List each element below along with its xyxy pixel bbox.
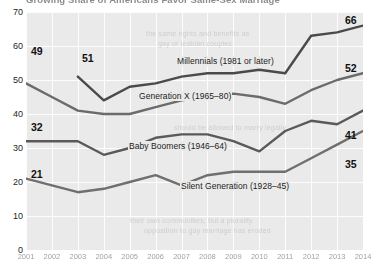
chart-title: Growing Share of Americans Favor Same-Se…	[26, 0, 280, 5]
x-tick-label: 2009	[225, 252, 242, 261]
series-label-baby: Baby Boomers (1946–64)	[128, 141, 228, 151]
value-callout-genx-end: 52	[345, 62, 357, 74]
series-label-generation: Generation X (1965–80)	[138, 91, 232, 101]
value-callout-millennials-start: 51	[82, 52, 94, 64]
x-tick-label: 2004	[95, 252, 112, 261]
value-callout-silent-start: 21	[31, 168, 43, 180]
series-label-millennials: Millennials (1981 or later)	[176, 56, 275, 66]
plot-inner: the same rights and benefits asgay or le…	[26, 12, 363, 250]
chart-root: Growing Share of Americans Favor Same-Se…	[0, 0, 371, 263]
y-tick-label: 10	[1, 211, 23, 221]
x-tick-label: 2002	[44, 252, 61, 261]
value-callout-millennials-end: 66	[345, 14, 357, 26]
y-tick-label: 20	[1, 177, 23, 187]
value-callout-genx-start: 49	[31, 45, 43, 57]
value-callout-boomers-end: 41	[345, 129, 357, 141]
y-tick-label: 40	[1, 109, 23, 119]
value-callout-silent-end: 35	[345, 158, 357, 170]
x-tick-label: 2011	[277, 252, 293, 261]
x-tick-label: 2012	[303, 252, 320, 261]
x-tick-label: 2001	[18, 252, 35, 261]
y-axis: 706050403020100	[0, 12, 23, 250]
x-tick-label: 2007	[173, 252, 190, 261]
series-lines	[26, 12, 363, 250]
plot-area: the same rights and benefits asgay or le…	[26, 12, 363, 250]
x-axis: 2001200220032004200520062007200820092010…	[26, 252, 363, 263]
x-tick-label: 2014	[355, 252, 371, 261]
y-tick-label: 70	[1, 7, 23, 17]
x-tick-label: 2003	[70, 252, 87, 261]
series-label-silent: Silent Generation (1928–45)	[180, 181, 290, 191]
x-tick-label: 2010	[251, 252, 268, 261]
x-tick-label: 2005	[121, 252, 138, 261]
y-tick-label: 50	[1, 75, 23, 85]
x-tick-label: 2008	[199, 252, 216, 261]
x-tick-label: 2013	[329, 252, 346, 261]
y-tick-label: 30	[1, 143, 23, 153]
x-tick-label: 2006	[147, 252, 164, 261]
y-tick-label: 60	[1, 41, 23, 51]
value-callout-boomers-start: 32	[31, 121, 43, 133]
